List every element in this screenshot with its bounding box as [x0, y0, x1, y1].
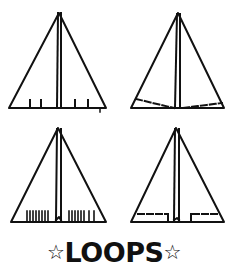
star-icon-right: ☆ — [163, 240, 180, 264]
airplane-diagram-4 — [131, 128, 224, 222]
airplane-diagram-3 — [11, 128, 106, 222]
caption-text: LOOPS — [65, 237, 164, 268]
star-icon-left: ☆ — [47, 240, 64, 264]
loops-caption: ☆LOOPS☆ — [0, 236, 228, 269]
airplane-diagrams — [0, 0, 228, 276]
airplane-diagram-1 — [9, 13, 106, 112]
airplane-diagram-2 — [131, 13, 224, 108]
